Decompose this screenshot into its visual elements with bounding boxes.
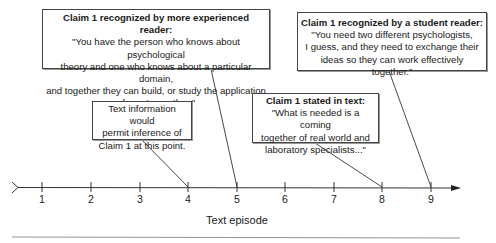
tick-label-2: 2 bbox=[83, 193, 99, 205]
timeline-axis bbox=[12, 182, 461, 193]
annotation-quote: "You need two different psychologists, I… bbox=[301, 29, 483, 78]
tick-label-9: 9 bbox=[423, 193, 439, 205]
annotation-text: Text information would permit inference … bbox=[96, 103, 188, 152]
annotation-title: Claim 1 recognized by a student reader: bbox=[301, 17, 483, 29]
annotation-stated-in-text: Claim 1 stated in text: "What is needed … bbox=[252, 93, 379, 143]
annotation-quote: "You have the person who knows about psy… bbox=[46, 36, 266, 109]
tick-label-8: 8 bbox=[374, 193, 390, 205]
annotation-quote: "What is needed is a coming together of … bbox=[256, 107, 375, 156]
axis-label: Text episode bbox=[187, 214, 287, 226]
axis-arrowhead-icon bbox=[451, 185, 461, 191]
annotation-title: Claim 1 recognized by more experienced r… bbox=[46, 12, 266, 36]
tick-label-6: 6 bbox=[277, 193, 293, 205]
annotation-student-reader: Claim 1 recognized by a student reader: … bbox=[297, 12, 487, 71]
axis-tail-icon bbox=[12, 182, 18, 193]
leader-student-reader bbox=[389, 71, 431, 187]
annotation-title: Claim 1 stated in text: bbox=[256, 95, 375, 107]
tick-label-5: 5 bbox=[229, 193, 245, 205]
annotation-inference: Text information would permit inference … bbox=[92, 101, 192, 140]
annotation-experienced-reader: Claim 1 recognized by more experienced r… bbox=[42, 9, 270, 69]
tick-label-1: 1 bbox=[34, 193, 50, 205]
bottom-rule bbox=[12, 237, 460, 238]
tick-label-3: 3 bbox=[132, 193, 148, 205]
tick-label-7: 7 bbox=[326, 193, 342, 205]
tick-label-4: 4 bbox=[180, 193, 196, 205]
